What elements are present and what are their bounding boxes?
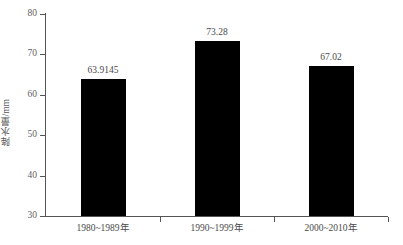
x-axis-category-label: 1980~1989年 [76,224,129,234]
y-axis-tick-label-text: 40 [28,171,38,181]
y-axis-title-label: 降水量/mm [2,99,12,146]
y-axis-tick-label: 60 [0,95,38,96]
y-axis-tick-label: 30 [0,216,38,217]
y-axis-tick-label: 80 [0,14,38,15]
bar-value-label: 67.02 [320,53,341,63]
x-axis-category-label: 1990~1999年 [190,224,243,234]
x-axis-tick [274,217,275,222]
y-axis-tick-label-text: 70 [28,49,38,59]
x-axis-tick [160,217,161,222]
y-axis-tick [40,216,46,217]
y-axis-tick-label-text: 80 [28,9,38,19]
plot-area [46,14,388,216]
x-axis-category-label: 2000~2010年 [304,224,357,234]
y-axis-tick-label-text: 50 [28,130,38,140]
y-axis-tick-label-text: 60 [28,90,38,100]
y-axis-tick-label: 70 [0,54,38,55]
y-axis-tick-label-text: 30 [28,211,38,221]
y-axis-tick-label: 50 [0,135,38,136]
y-axis-tick-label: 40 [0,176,38,177]
bar-chart: 降水量/mm 807060504030 63.91451980~1989年73.… [0,0,403,245]
bar [309,66,354,216]
bar [81,79,126,216]
x-axis-line [45,216,388,217]
bar [195,41,240,216]
bar-value-label: 63.9145 [88,66,119,76]
y-axis-title: 降水量/mm [0,0,14,245]
x-axis-tick [388,217,389,222]
bar-value-label: 73.28 [206,28,227,38]
